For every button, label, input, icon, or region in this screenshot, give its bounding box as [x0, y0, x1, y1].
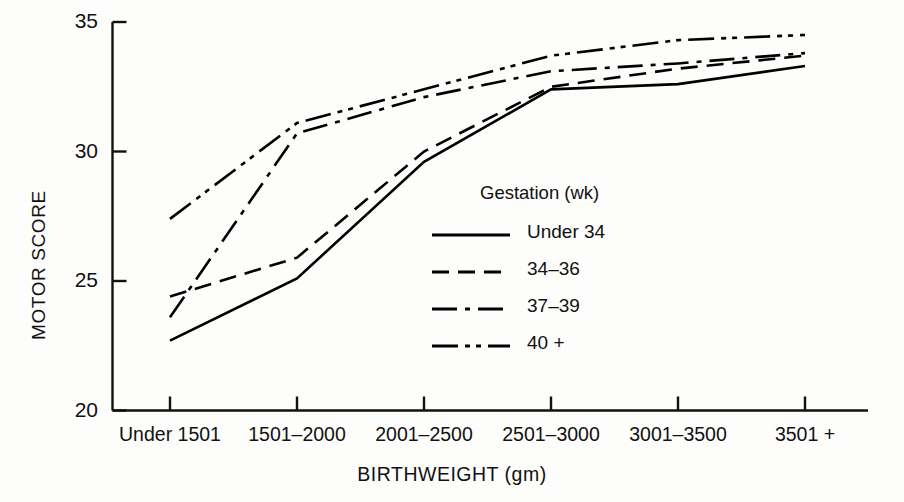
legend-entry-label: Under 34 — [527, 221, 605, 243]
y-tick-label: 35 — [36, 9, 98, 33]
legend-entry: 40 + — [432, 328, 605, 358]
y-axis-title-wrap: MOTOR SCORE — [18, 150, 58, 350]
legend-line-swatch — [432, 225, 510, 239]
legend-entry-label: 34–36 — [527, 258, 580, 280]
x-tick-label: 2501–3000 — [481, 423, 621, 446]
motor-score-birthweight-chart: MOTOR SCORE 20253035 Under 15011501–2000… — [0, 0, 904, 502]
x-tick-label: 3001–3500 — [608, 423, 748, 446]
legend-entry: 37–39 — [432, 291, 605, 321]
legend-entry-label: 40 + — [527, 332, 565, 354]
x-tick-label: Under 1501 — [100, 423, 240, 446]
legend-entry-label: 37–39 — [527, 295, 580, 317]
y-axis-ticks — [113, 22, 127, 411]
legend-entry: 34–36 — [432, 254, 605, 284]
y-tick-label: 25 — [36, 268, 98, 292]
x-tick-label: 3501 + — [735, 423, 875, 446]
legend-entries: Under 3434–3637–3940 + — [432, 217, 605, 358]
y-tick-label: 20 — [36, 398, 98, 422]
legend-line-swatch — [432, 299, 510, 313]
x-tick-label: 2001–2500 — [354, 423, 494, 446]
chart-legend: Gestation (wk) Under 3434–3637–3940 + — [432, 182, 605, 365]
x-tick-label: 1501–2000 — [227, 423, 367, 446]
legend-entry: Under 34 — [432, 217, 605, 247]
y-axis-title: MOTOR SCORE — [28, 190, 50, 340]
x-axis-title: BIRTHWEIGHT (gm) — [0, 463, 904, 486]
x-axis-ticks — [170, 397, 805, 411]
legend-title: Gestation (wk) — [480, 182, 605, 204]
legend-line-swatch — [432, 262, 510, 276]
y-tick-label: 30 — [36, 139, 98, 163]
legend-line-swatch — [432, 336, 510, 350]
